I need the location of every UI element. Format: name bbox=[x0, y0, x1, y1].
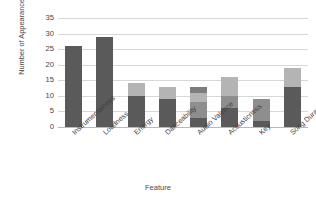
x-axis-title: Feature bbox=[0, 183, 316, 192]
bar-segment bbox=[221, 77, 238, 96]
y-axis-tick-label: 25 bbox=[30, 45, 54, 53]
y-axis-tick-label: 0 bbox=[30, 123, 54, 131]
y-axis-tick-label: 35 bbox=[30, 14, 54, 22]
y-axis-tick-label: 10 bbox=[30, 92, 54, 100]
bar-segment bbox=[159, 87, 176, 99]
bar-chart: Number of Appearances 05101520253035 Ins… bbox=[0, 0, 316, 201]
x-axis-tick-labels: InstrumentalnessLoudnessEnergyDanceabili… bbox=[58, 130, 316, 182]
bar[interactable] bbox=[65, 46, 82, 127]
y-axis-tick-labels: 05101520253035 bbox=[30, 0, 54, 201]
bar-segment bbox=[190, 93, 207, 102]
bar-segment bbox=[284, 68, 301, 87]
bar-segment bbox=[65, 46, 82, 127]
y-axis-tick-label: 15 bbox=[30, 76, 54, 84]
bar[interactable] bbox=[284, 68, 301, 127]
y-axis-title: Number of Appearances bbox=[15, 0, 29, 95]
y-axis-tick-label: 20 bbox=[30, 61, 54, 69]
y-axis-tick-label: 30 bbox=[30, 30, 54, 38]
y-axis-tick-label: 5 bbox=[30, 107, 54, 115]
bar-segment bbox=[128, 83, 145, 95]
